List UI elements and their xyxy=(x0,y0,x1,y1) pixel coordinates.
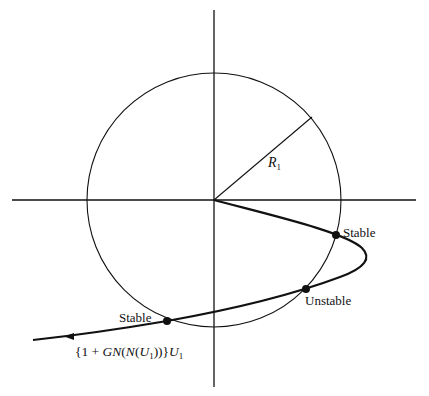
stable-label-2: Stable xyxy=(119,310,152,325)
unstable-point xyxy=(302,285,310,293)
radius-label: R1 xyxy=(267,155,281,172)
direction-arrow-icon xyxy=(64,333,74,340)
describing-curve xyxy=(33,200,366,340)
unstable-label: Unstable xyxy=(305,293,351,308)
stable-point-1 xyxy=(332,231,340,239)
radius-line xyxy=(214,117,312,200)
stable-label-1: Stable xyxy=(343,225,376,240)
stability-diagram: R1 Stable Unstable Stable {1 + GN(N(U1))… xyxy=(0,0,429,396)
stable-point-2 xyxy=(163,317,171,325)
curve-label: {1 + GN(N(U1))}U1 xyxy=(75,344,183,361)
